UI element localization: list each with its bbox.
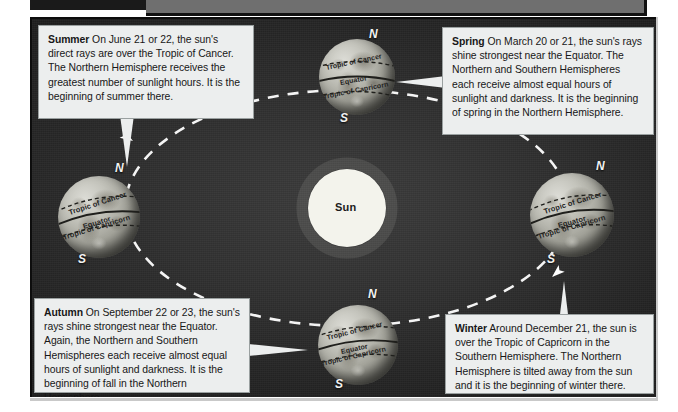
globe-spring-south-label: S <box>340 111 349 125</box>
callout-autumn-text: On September 22 or 23, the sun's rays sh… <box>44 307 240 397</box>
globe-spring-north-label: N <box>369 27 378 41</box>
summer-callout-tail <box>120 115 134 167</box>
seasons-diagram-page: Sun N S Tropic of Cancer Equator Tropic … <box>0 0 678 412</box>
callout-autumn: Autumn On September 22 or 23, the sun's … <box>34 298 250 393</box>
globe-summer: N S Tropic of Cancer Equator Tropic of C… <box>52 164 152 268</box>
spring-callout-tail <box>396 76 446 88</box>
top-partial-strip <box>146 0 647 16</box>
callout-winter: Winter Around December 21, the sun is ov… <box>445 314 654 394</box>
sun-label: Sun <box>335 201 356 213</box>
globe-autumn-north-label: N <box>368 287 377 301</box>
callout-summer-season: Summer <box>48 34 89 45</box>
globe-summer-south-label: S <box>78 252 87 266</box>
top-partial-strip-left-block <box>30 0 146 10</box>
callout-spring-text: On March 20 or 21, the sun's rays shine … <box>452 36 642 118</box>
diagram-figure-panel: Sun N S Tropic of Cancer Equator Tropic … <box>30 17 658 397</box>
globe-winter: N S Tropic of Cancer Equator Tropic of C… <box>520 159 624 271</box>
globe-winter-north-label: N <box>596 159 605 173</box>
callout-autumn-season: Autumn <box>44 307 83 318</box>
callout-spring: Spring On March 20 or 21, the sun's rays… <box>442 27 654 135</box>
callout-summer: Summer On June 21 or 22, the sun's direc… <box>38 25 254 119</box>
globe-winter-south-label: S <box>547 252 556 266</box>
autumn-callout-tail <box>248 344 308 356</box>
globe-spring: N S Tropic of Cancer Equator Tropic of C… <box>314 31 400 117</box>
globe-autumn-south-label: S <box>335 377 344 391</box>
figure-bottom-rule <box>30 398 658 401</box>
callout-winter-season: Winter <box>455 323 487 334</box>
globe-autumn: N S Tropic of Cancer Equator Tropic of C… <box>310 293 406 397</box>
callout-spring-season: Spring <box>452 36 485 47</box>
